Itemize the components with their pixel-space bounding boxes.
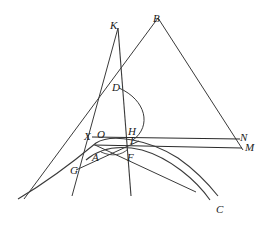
- point-label-M: M: [245, 142, 254, 153]
- line-A-descending-right: [95, 145, 196, 192]
- vertical-axis-line: [118, 28, 131, 196]
- point-label-G: G: [70, 165, 78, 176]
- line-B-to-N: [158, 18, 243, 150]
- geometry-diagram: K B D H I N M X O A F G C: [0, 0, 270, 235]
- point-label-O: O: [97, 129, 105, 140]
- line-K-to-lower-left: [72, 28, 118, 196]
- diagram-canvas: [0, 0, 270, 235]
- straight-lines-group: [24, 18, 243, 199]
- point-label-F: F: [127, 152, 134, 163]
- point-label-B: B: [153, 13, 160, 24]
- point-label-A: A: [92, 152, 99, 163]
- point-label-C: C: [216, 204, 223, 215]
- line-B-through-D-to-lower-left: [24, 18, 158, 199]
- point-label-K: K: [110, 20, 117, 31]
- point-label-D: D: [112, 82, 120, 93]
- curves-group: [18, 88, 218, 200]
- conic-lower-through-A-curve: [86, 148, 210, 200]
- point-label-I: I: [130, 135, 134, 146]
- point-label-X: X: [84, 131, 91, 142]
